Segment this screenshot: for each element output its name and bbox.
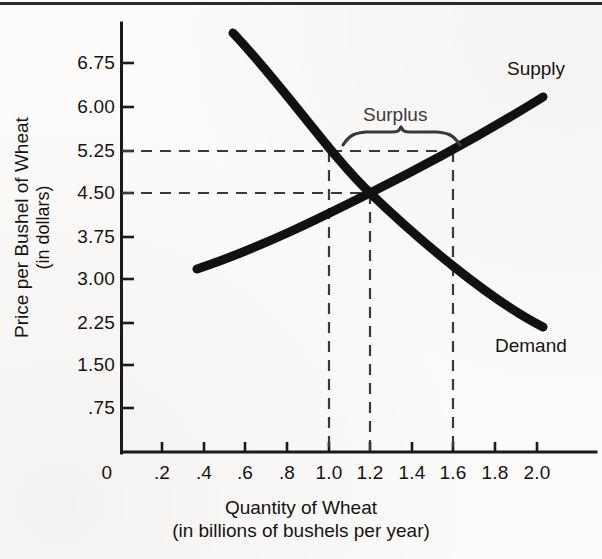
x-tick-label: 2.0 [512, 462, 562, 484]
y-tick-label: 6.75 [20, 52, 115, 74]
surplus-brace-icon [343, 127, 460, 145]
y-tick-label: 1.50 [20, 354, 115, 376]
y-axis-title: Price per Bushel of Wheat (in dollars) [10, 103, 55, 353]
axes [122, 23, 597, 453]
surplus-label: Surplus [363, 104, 427, 126]
y-tick-label: .75 [20, 397, 115, 419]
y-axis-title-line1: Price per Bushel of Wheat [10, 103, 33, 353]
supply-curve-label: Supply [507, 58, 565, 80]
x-tick-label: .6 [222, 462, 268, 484]
x-axis-title-line2: (in billions of bushels per year) [0, 520, 602, 542]
figure-canvas: 6.75 6.00 5.25 4.50 3.75 3.00 2.25 1.50 … [0, 0, 602, 559]
x-tick-label: .4 [181, 462, 227, 484]
demand-curve-label: Demand [495, 335, 567, 357]
x-tick-label: 0 [84, 462, 130, 484]
x-axis-title-line1: Quantity of Wheat [0, 497, 602, 519]
y-axis-title-line2: (in dollars) [34, 103, 56, 353]
guide-lines [122, 151, 454, 452]
x-tick-label: .2 [139, 462, 185, 484]
